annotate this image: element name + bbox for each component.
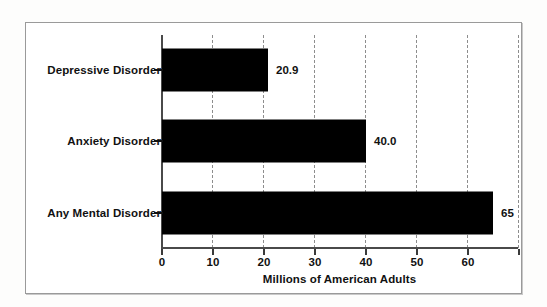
x-tick-20 [263,249,265,255]
x-tick-0 [161,249,163,255]
x-axis-line [161,247,518,249]
x-tick-60 [467,249,469,255]
x-tick-label-40: 40 [360,256,373,268]
x-tick-label-30: 30 [309,256,322,268]
chart-frame: 20.9 40.0 65 Depressive Disorder Anxiety… [25,22,522,294]
bar-value-depressive-disorder: 20.9 [276,64,298,76]
gridline-69 [518,35,519,248]
x-tick-10 [212,249,214,255]
bar-value-anxiety-disorder: 40.0 [374,135,396,147]
x-tick-label-0: 0 [159,256,165,268]
bar-value-any-mental-disorder: 65 [501,207,514,219]
x-tick-label-20: 20 [258,256,271,268]
bar-anxiety-disorder [162,120,366,163]
x-tick-30 [314,249,316,255]
x-tick-end [518,249,520,255]
x-tick-40 [365,249,367,255]
figure-root: 20.9 40.0 65 Depressive Disorder Anxiety… [0,0,547,307]
category-label-anxiety-disorder: Anxiety Disorder [0,135,161,147]
x-tick-label-10: 10 [207,256,220,268]
x-tick-label-60: 60 [462,256,475,268]
chart-plot-area: 20.9 40.0 65 Depressive Disorder Anxiety… [26,23,523,295]
bar-depressive-disorder [162,49,268,92]
x-axis-title: Millions of American Adults [161,273,518,285]
category-label-depressive-disorder: Depressive Disorder [0,64,161,76]
x-tick-50 [416,249,418,255]
bar-any-mental-disorder [162,192,493,235]
category-label-any-mental-disorder: Any Mental Disorder [0,207,161,219]
x-tick-label-50: 50 [411,256,424,268]
